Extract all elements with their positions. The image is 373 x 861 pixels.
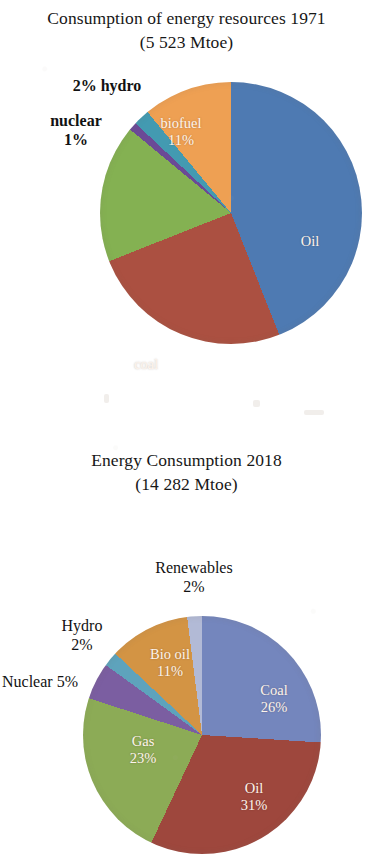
chart-1971-title: Consumption of energy resources 1971 (5 … xyxy=(0,0,373,54)
pie-1971-nuclear-pct: 1% xyxy=(12,130,140,149)
pie-1971-label-nuclear: nuclear 1% xyxy=(12,111,140,149)
pie-2018-hydro-name: Hydro xyxy=(62,617,103,634)
pie-chart-1971: Oil coal biofuel 11% 2% hydro nuclear 1% xyxy=(0,54,373,384)
pie-1971-coal-name: coal xyxy=(134,356,158,372)
chart-1971-title-line2: (5 523 Mtoe) xyxy=(0,30,373,54)
pie-2018-nuclear-text: Nuclear 5% xyxy=(2,673,78,690)
pie-2018-renewables-name: Renewables xyxy=(155,559,232,576)
figure-2018: Energy Consumption 2018 (14 282 Mtoe) Re… xyxy=(0,448,373,846)
pie-2018-renewables-pct: 2% xyxy=(104,577,284,596)
scan-artifact xyxy=(304,410,324,415)
pie-1971-nuclear-name: nuclear xyxy=(50,112,102,129)
pie-1971-label-hydro: 2% hydro xyxy=(33,76,181,95)
pie-1971-hydro-text: 2% hydro xyxy=(73,77,142,94)
pie-2018-hydro-pct: 2% xyxy=(30,635,134,654)
scan-artifact xyxy=(253,400,260,407)
chart-2018-title-line1: Energy Consumption 2018 xyxy=(91,450,282,470)
pie-2018-label-renewables: Renewables 2% xyxy=(104,558,284,596)
chart-2018-title: Energy Consumption 2018 (14 282 Mtoe) xyxy=(0,448,373,496)
pie-2018-label-hydro: Hydro 2% xyxy=(30,616,134,654)
pie-2018-label-nuclear: Nuclear 5% xyxy=(2,672,78,691)
scan-artifact xyxy=(104,394,109,403)
pie-1971-label-coal: coal xyxy=(111,356,181,373)
chart-1971-title-line1: Consumption of energy resources 1971 xyxy=(47,8,325,28)
figure-1971: Consumption of energy resources 1971 (5 … xyxy=(0,0,373,384)
pie-chart-2018: Renewables 2% Hydro 2% Nuclear 5% Bio oi… xyxy=(0,496,373,846)
chart-2018-title-line2: (14 282 Mtoe) xyxy=(0,472,373,496)
